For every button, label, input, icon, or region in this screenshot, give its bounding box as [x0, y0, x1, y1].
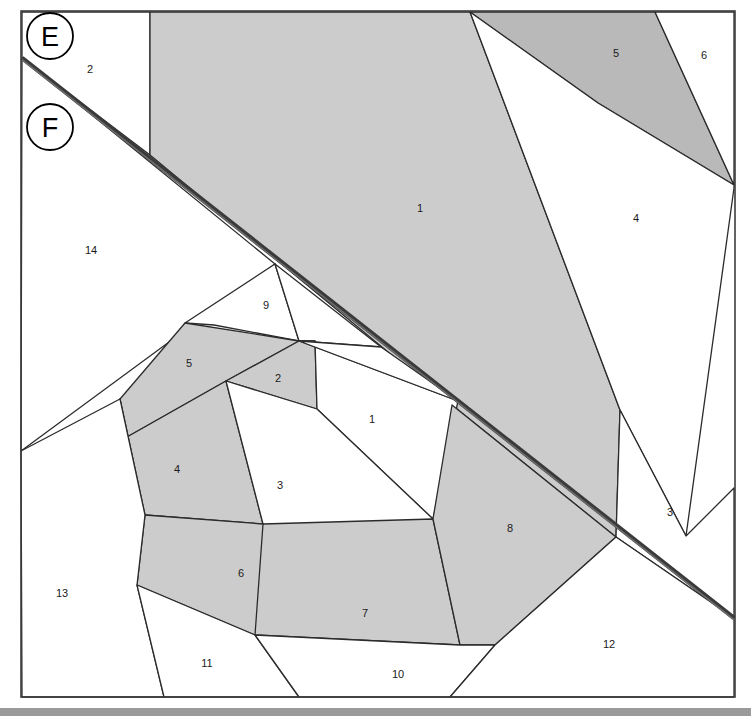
region-label: 6 [238, 567, 244, 579]
callout-f: F [27, 104, 73, 150]
region-label: 13 [56, 587, 68, 599]
region-label: 2 [275, 372, 281, 384]
region-polygon [255, 519, 460, 645]
region-label: 3 [277, 479, 283, 491]
region-label: 2 [87, 63, 93, 75]
region-label: 12 [603, 638, 615, 650]
callout-letter: F [42, 113, 59, 143]
region-label: 10 [392, 668, 404, 680]
callout-e: E [27, 13, 73, 59]
region-label: 5 [186, 357, 192, 369]
region-label: 5 [613, 47, 619, 59]
region-label: 11 [201, 657, 212, 669]
region-label: 6 [701, 49, 707, 61]
diagram-canvas: 2156431495214367813111012 EF [0, 0, 751, 716]
region-label: 4 [633, 212, 639, 224]
region-label: 4 [174, 463, 180, 475]
bottom-gray-bar [0, 708, 751, 716]
region-label: 9 [263, 299, 269, 311]
callout-letter: E [41, 22, 59, 52]
region-label: 1 [369, 413, 375, 425]
regions-layer [21, 12, 734, 697]
region-label: 7 [362, 607, 368, 619]
region-label: 3 [667, 506, 673, 518]
geometric-partition-svg: 2156431495214367813111012 EF [0, 0, 751, 716]
region-label: 1 [417, 202, 423, 214]
region-label: 14 [85, 244, 97, 256]
region-label: 8 [507, 522, 513, 534]
